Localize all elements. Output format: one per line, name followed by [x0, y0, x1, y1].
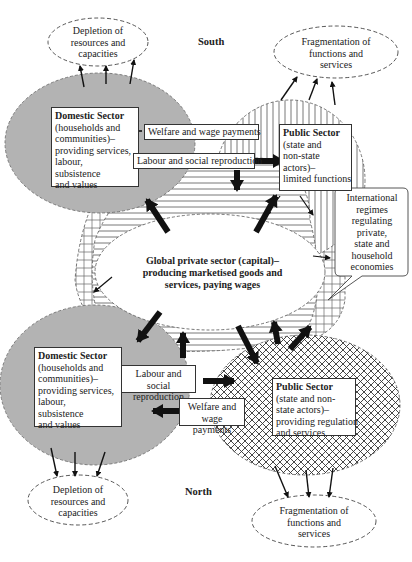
- line: and values: [38, 419, 118, 431]
- line: Labour and social: [125, 368, 192, 391]
- line: (state and non-: [276, 393, 352, 405]
- line: Global private sector (capital)–: [130, 255, 295, 267]
- line: providing regulation: [276, 416, 352, 428]
- south-depletion-text: Depletion of resources and capacities: [58, 25, 138, 60]
- north-public-title: Public Sector: [276, 381, 352, 393]
- line: capacities: [38, 507, 118, 519]
- line: private,: [336, 227, 408, 239]
- region-label-south: South: [198, 36, 224, 48]
- line: economies: [336, 261, 408, 273]
- south-public-sector-box: Public Sector (state and non-state actor…: [279, 124, 352, 191]
- north-domestic-sector-box: Domestic Sector (households and communit…: [34, 347, 122, 427]
- line: labour,: [38, 396, 118, 408]
- line: International: [336, 192, 408, 204]
- south-labour-box: Labour and social reproduction: [133, 153, 255, 169]
- line: wage payments: [183, 413, 241, 436]
- line: resources and: [38, 496, 118, 508]
- line: services: [264, 528, 364, 540]
- line: providing services,: [55, 145, 135, 157]
- line: communities)–: [55, 133, 135, 145]
- line: (state and: [283, 139, 348, 151]
- line: providing services,: [38, 385, 118, 397]
- north-labour-box: Labour and social reproduction: [121, 365, 196, 393]
- line: Welfare and: [183, 401, 241, 413]
- south-domestic-title: Domestic Sector: [55, 110, 135, 122]
- south-fragmentation-text: Fragmentation of functions and services: [286, 36, 386, 71]
- line: actors)–: [283, 162, 348, 174]
- line: regulating: [336, 215, 408, 227]
- south-public-title: Public Sector: [283, 127, 348, 139]
- north-fragmentation-text: Fragmentation of functions and services: [264, 505, 364, 540]
- region-label-north: North: [185, 486, 212, 498]
- line: Depletion of: [58, 25, 138, 37]
- north-public-sector-box: Public Sector (state and non- state acto…: [272, 378, 356, 436]
- line: and services: [276, 427, 352, 439]
- line: Depletion of: [38, 484, 118, 496]
- line: communities)–: [38, 373, 118, 385]
- line: non-state: [283, 150, 348, 162]
- north-depletion-text: Depletion of resources and capacities: [38, 484, 118, 519]
- line: Fragmentation of: [286, 36, 386, 48]
- line: state actors)–: [276, 404, 352, 416]
- line: subsistence: [38, 408, 118, 420]
- line: regimes: [336, 204, 408, 216]
- north-domestic-title: Domestic Sector: [38, 350, 118, 362]
- line: functions and: [264, 517, 364, 529]
- line: state and: [336, 238, 408, 250]
- south-welfare-box: Welfare and wage payments: [144, 124, 259, 140]
- line: labour,: [55, 156, 135, 168]
- line: and values: [55, 179, 135, 191]
- line: functions and: [286, 48, 386, 60]
- line: services, paying wages: [130, 279, 295, 291]
- line: (households and: [55, 122, 135, 134]
- line: services: [286, 59, 386, 71]
- international-regimes-text: International regimes regulating private…: [336, 192, 408, 273]
- line: (households and: [38, 362, 118, 374]
- line: Fragmentation of: [264, 505, 364, 517]
- line: resources and: [58, 37, 138, 49]
- north-welfare-box: Welfare and wage payments: [179, 398, 245, 426]
- global-private-sector-text: Global private sector (capital)– produci…: [130, 255, 295, 291]
- line: household: [336, 250, 408, 262]
- line: limited functions: [283, 173, 348, 185]
- south-domestic-sector-box: Domestic Sector (households and communit…: [51, 107, 139, 187]
- line: producing marketised goods and: [130, 267, 295, 279]
- line: capacities: [58, 48, 138, 60]
- line: subsistence: [55, 168, 135, 180]
